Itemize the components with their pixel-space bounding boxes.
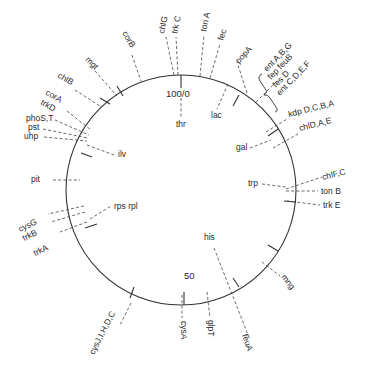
- gene-label-ilv: ilv: [118, 149, 127, 159]
- gene-leader-glpT: [207, 292, 210, 318]
- gene-leader-chlB: [75, 90, 100, 106]
- scale-tick: [81, 153, 92, 157]
- gene-label-his: his: [204, 232, 215, 242]
- gene-label-cysA: cysA: [179, 321, 189, 340]
- gene-leader-cysG: [48, 206, 84, 214]
- gene-leader-popA: [237, 62, 247, 93]
- gene-label-mng: mng: [279, 272, 297, 291]
- gene-label-chlB: chlB: [56, 70, 76, 87]
- gene-leader-cysJIHDC: [120, 303, 131, 325]
- gene-leader-mgt: [95, 71, 117, 96]
- gene-leader-ilv: [87, 145, 114, 155]
- scale-label: 100/0: [166, 88, 190, 99]
- gene-label-mgt: mgt: [84, 54, 102, 72]
- gene-label-chlG: chlG: [156, 15, 169, 34]
- gene-label-trkC: trk C: [169, 15, 183, 35]
- gene-label-tonB: ton B: [321, 186, 341, 196]
- gene-label-trkA: trkA: [32, 242, 50, 258]
- gene-leader-chlG: [166, 37, 174, 75]
- gene-label-glpT: glpT: [206, 320, 216, 337]
- gene-label-uhp: uhp: [24, 131, 38, 141]
- scale-tick: [268, 245, 278, 251]
- gene-leader-his: [214, 248, 250, 340]
- genetic-map: chlGtrk Cton AfecthrlacpopAent A,B,Gfep …: [0, 0, 368, 370]
- gene-label-popA: popA: [233, 44, 254, 66]
- gene-label-phoST: phoS,T: [26, 113, 53, 123]
- gene-label-lac: lac: [211, 110, 223, 120]
- scale-labels: 100/050: [166, 88, 195, 281]
- scale-tick: [85, 224, 97, 228]
- gene-leader-trp: [262, 184, 286, 187]
- gene-label-chlDAE: chlD,A,E: [298, 115, 333, 133]
- gene-label-thr: thr: [176, 119, 186, 129]
- gene-label-pit: pit: [31, 174, 41, 184]
- gene-leader-tonA: [200, 35, 204, 76]
- gene-label-trp: trp: [248, 178, 258, 188]
- gene-label-pst: pst: [28, 122, 40, 132]
- gene-leader-corB: [132, 55, 141, 81]
- gene-label-tonA: ton A: [198, 11, 212, 32]
- gene-leader-fec: [210, 44, 220, 78]
- scale-tick: [233, 278, 239, 287]
- gene-leader-trkC: [176, 37, 178, 75]
- gene-label-feuA: feuA: [240, 333, 255, 353]
- scale-tick: [268, 129, 278, 136]
- gene-leader-rps_rpl: [90, 206, 111, 219]
- gene-label-corB: corB: [120, 29, 138, 49]
- gene-leader-chlFC: [286, 177, 322, 189]
- gene-label-rps_rpl: rps rpl: [114, 201, 138, 211]
- scale-label: 50: [184, 270, 195, 281]
- scale-tick: [130, 287, 134, 298]
- gene-label-cysJIHDC: cysJ,I,H,D,C: [87, 309, 117, 356]
- gene-label-chlFC: chlF,C: [321, 167, 346, 182]
- gene-leader-uhp: [44, 137, 87, 141]
- gene-leader-gal: [250, 140, 271, 148]
- gene-label-trkE: trk E: [323, 200, 341, 210]
- scale-tick: [233, 95, 239, 106]
- gene-leader-lac: [217, 84, 228, 109]
- gene-label-fec: fec: [215, 27, 228, 42]
- gene-label-gal: gal: [236, 142, 247, 152]
